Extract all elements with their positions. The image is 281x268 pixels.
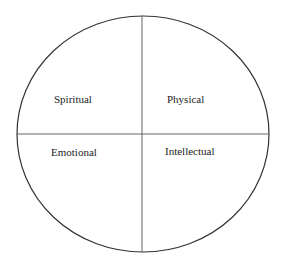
quadrant-label-spiritual: Spiritual [54,94,92,105]
quadrant-label-intellectual: Intellectual [165,146,214,157]
quadrant-diagram [0,0,281,268]
quadrant-label-emotional: Emotional [51,147,97,158]
quadrant-label-physical: Physical [167,94,204,105]
